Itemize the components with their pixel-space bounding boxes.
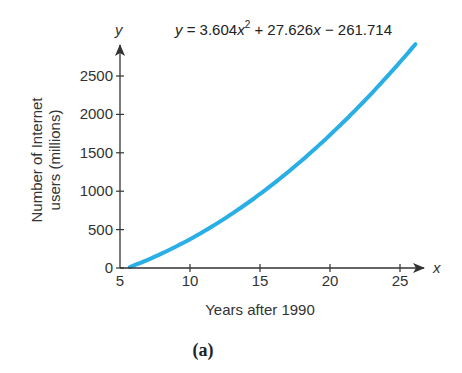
y-ticks: 05001000150020002500 bbox=[80, 67, 124, 276]
x-tick-label: 20 bbox=[322, 272, 339, 289]
y-axis-title: Number of Internet users (millions) bbox=[28, 97, 63, 223]
y-tick-label: 1500 bbox=[80, 144, 113, 161]
y-tick-label: 2000 bbox=[80, 105, 113, 122]
y-var-label: y bbox=[114, 21, 124, 38]
chart-canvas: 510152025 05001000150020002500 x y Years… bbox=[0, 0, 462, 373]
x-tick-label: 5 bbox=[116, 272, 124, 289]
y-tick-label: 0 bbox=[105, 259, 113, 276]
y-tick-label: 1000 bbox=[80, 182, 113, 199]
equation-label: y = 3.604x2 + 27.626x − 261.714 bbox=[174, 19, 392, 38]
y-tick-label: 2500 bbox=[80, 67, 113, 84]
x-axis-title: Years after 1990 bbox=[205, 301, 315, 318]
figure-caption: (a) bbox=[193, 340, 214, 361]
x-tick-label: 10 bbox=[182, 272, 199, 289]
y-axis-title-line1: Number of Internet bbox=[28, 97, 45, 223]
y-tick-label: 500 bbox=[88, 221, 113, 238]
x-var-label: x bbox=[432, 259, 441, 276]
y-axis-title-line2: users (millions) bbox=[46, 110, 63, 211]
x-tick-label: 15 bbox=[252, 272, 269, 289]
x-tick-label: 25 bbox=[392, 272, 409, 289]
data-curve bbox=[130, 44, 416, 267]
